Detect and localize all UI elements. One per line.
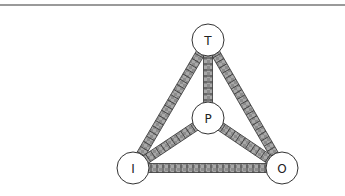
node-o: O	[266, 152, 298, 184]
node-label: P	[204, 112, 211, 126]
node-t: T	[192, 24, 224, 56]
edge-i-o	[133, 164, 282, 173]
node-i: I	[117, 152, 149, 184]
node-label: T	[203, 34, 212, 48]
nodes-group: TPIO	[117, 24, 298, 184]
tetrahedron-diagram: TPIO	[0, 0, 345, 196]
node-p: P	[192, 102, 224, 134]
node-label: O	[277, 162, 286, 176]
node-label: I	[131, 162, 135, 176]
